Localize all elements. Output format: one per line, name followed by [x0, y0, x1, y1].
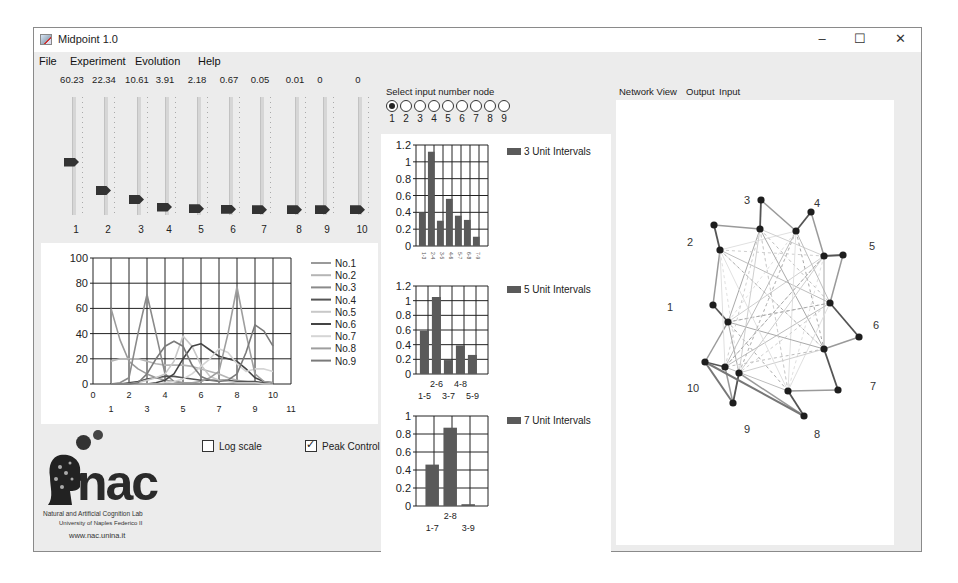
- slider-ticks: [239, 97, 240, 215]
- peak-slider-8[interactable]: [285, 97, 313, 217]
- network-graph: 12345678910: [616, 100, 894, 545]
- slider-label: 6: [219, 224, 247, 235]
- svg-text:4-6: 4-6: [448, 252, 454, 259]
- node-label: 2: [687, 236, 693, 248]
- slider-track[interactable]: [197, 97, 201, 215]
- svg-text:1: 1: [405, 295, 411, 307]
- slider-thumb[interactable]: [129, 195, 144, 204]
- network-view-panel: 12345678910: [616, 100, 894, 545]
- peak-slider-5[interactable]: [187, 97, 215, 217]
- slider-thumb[interactable]: [350, 205, 365, 214]
- network-node: [800, 412, 807, 419]
- svg-text:0.6: 0.6: [396, 446, 411, 458]
- logo-url: www.nac.unina.it: [69, 531, 125, 540]
- slider-track[interactable]: [295, 97, 299, 215]
- slider-label: 3: [127, 224, 155, 235]
- radio-node-4[interactable]: [428, 100, 440, 112]
- slider-value: 0: [303, 74, 337, 85]
- slider-thumb[interactable]: [64, 158, 79, 167]
- slider-value: 3.91: [148, 74, 182, 85]
- slider-track[interactable]: [165, 97, 169, 215]
- radio-node-8[interactable]: [484, 100, 496, 112]
- peak-control-checkbox[interactable]: Peak Control: [305, 440, 380, 452]
- slider-track[interactable]: [323, 97, 327, 215]
- network-node: [709, 301, 716, 308]
- peak-slider-4[interactable]: [155, 97, 183, 217]
- slider-thumb[interactable]: [287, 205, 302, 214]
- tab-output[interactable]: Output: [686, 86, 715, 97]
- peak-slider-9[interactable]: [313, 97, 341, 217]
- network-node: [710, 221, 717, 228]
- input-node-label: Select input number node: [386, 86, 494, 97]
- slider-track[interactable]: [229, 97, 233, 215]
- slider-track[interactable]: [358, 97, 362, 215]
- svg-text:6-8: 6-8: [466, 252, 472, 259]
- svg-text:No.9: No.9: [335, 356, 357, 367]
- node-label: 3: [744, 194, 750, 206]
- menu-experiment[interactable]: Experiment: [70, 55, 126, 67]
- close-button[interactable]: ✕: [882, 28, 918, 52]
- radio-node-5[interactable]: [442, 100, 454, 112]
- radio-node-3[interactable]: [414, 100, 426, 112]
- radio-label: 7: [471, 113, 481, 124]
- svg-text:0.6: 0.6: [396, 190, 411, 202]
- slider-thumb[interactable]: [221, 205, 236, 214]
- node-label: 10: [687, 382, 699, 394]
- checkbox-box[interactable]: [305, 440, 317, 452]
- svg-text:5-9: 5-9: [466, 391, 479, 401]
- app-window: Midpoint 1.0 – ☐ ✕ File Experiment Evolu…: [33, 27, 922, 552]
- slider-ticks: [368, 97, 369, 215]
- log-scale-checkbox[interactable]: Log scale: [202, 440, 262, 452]
- nac-logo: nac Natural and Artificial Cognition Lab…: [39, 428, 209, 553]
- app-icon: [40, 34, 52, 45]
- slider-ticks: [82, 97, 83, 215]
- radio-label: 9: [499, 113, 509, 124]
- slider-thumb[interactable]: [315, 205, 330, 214]
- slider-thumb[interactable]: [96, 186, 111, 195]
- network-node: [716, 246, 723, 253]
- slider-ticks: [333, 97, 334, 215]
- network-node: [834, 386, 841, 393]
- response-line-chart: 02040608010002468101357911No.1No.2No.3No…: [41, 243, 378, 424]
- radio-node-1[interactable]: [386, 100, 398, 112]
- radio-label: 6: [457, 113, 467, 124]
- slider-value: 60.23: [55, 74, 89, 85]
- radio-node-6[interactable]: [456, 100, 468, 112]
- slider-ticks: [175, 97, 176, 215]
- menu-evolution[interactable]: Evolution: [135, 55, 180, 67]
- tab-network-view[interactable]: Network View: [619, 86, 677, 97]
- network-node: [721, 363, 728, 370]
- slider-thumb[interactable]: [252, 205, 267, 214]
- peak-control-label: Peak Control: [322, 441, 380, 452]
- slider-thumb[interactable]: [189, 204, 204, 213]
- peak-slider-2[interactable]: [94, 97, 122, 217]
- peak-slider-1[interactable]: [62, 97, 90, 217]
- peak-slider-7[interactable]: [250, 97, 278, 217]
- peak-slider-3[interactable]: [127, 97, 155, 217]
- radio-node-9[interactable]: [498, 100, 510, 112]
- slider-track[interactable]: [72, 97, 76, 215]
- peak-slider-10[interactable]: [348, 97, 376, 217]
- svg-text:0.8: 0.8: [396, 173, 411, 185]
- minimize-button[interactable]: –: [804, 28, 840, 52]
- node-label: 8: [814, 428, 820, 440]
- menu-help[interactable]: Help: [198, 55, 221, 67]
- svg-text:1: 1: [405, 410, 411, 422]
- svg-text:60: 60: [76, 302, 88, 314]
- svg-text:2-6: 2-6: [430, 379, 443, 389]
- network-node: [735, 369, 742, 376]
- radio-node-7[interactable]: [470, 100, 482, 112]
- peak-slider-6[interactable]: [219, 97, 247, 217]
- slider-track[interactable]: [260, 97, 264, 215]
- line-chart-panel: 02040608010002468101357911No.1No.2No.3No…: [41, 243, 378, 424]
- tab-input[interactable]: Input: [719, 86, 740, 97]
- slider-track[interactable]: [104, 97, 108, 215]
- maximize-button[interactable]: ☐: [842, 28, 878, 52]
- radio-node-2[interactable]: [400, 100, 412, 112]
- node-label: 9: [744, 423, 750, 435]
- menu-file[interactable]: File: [39, 55, 57, 67]
- svg-text:0: 0: [405, 500, 411, 512]
- slider-thumb[interactable]: [157, 203, 172, 212]
- slider-label: 1: [62, 224, 90, 235]
- svg-text:100: 100: [70, 252, 88, 264]
